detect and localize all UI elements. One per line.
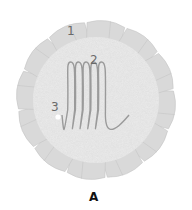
- label-2: 2: [90, 54, 98, 66]
- scalloped-disk-diagram: [0, 0, 192, 210]
- point-marker: [55, 114, 60, 119]
- label-3: 3: [51, 101, 59, 113]
- label-1: 1: [67, 25, 75, 37]
- figure-caption: A: [89, 191, 98, 203]
